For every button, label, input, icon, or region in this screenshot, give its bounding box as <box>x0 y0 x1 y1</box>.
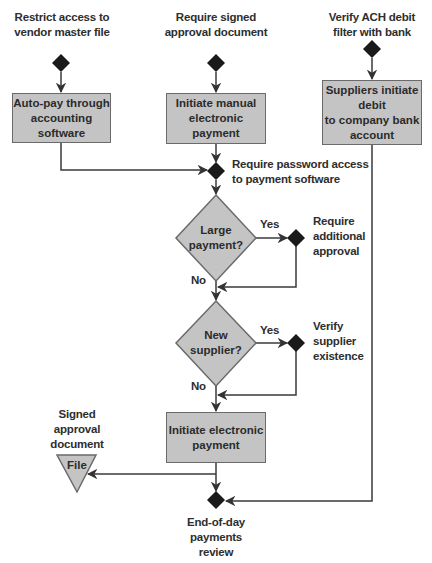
control-diamond-verify <box>287 334 305 352</box>
control-label-additional-approval: Require additional approval <box>313 214 373 259</box>
label-line: vendor master file <box>8 25 116 40</box>
label-line: Auto-pay through <box>13 96 110 111</box>
control-label-restrict-access: Restrict access to vendor master file <box>8 10 116 40</box>
label-line: supplier <box>313 334 373 349</box>
label-line: Suppliers initiate debit <box>323 83 421 113</box>
process-electronic-payment: Initiate electronic payment <box>166 412 266 463</box>
label-line: Initiate electronic <box>169 423 264 438</box>
label-line: Require <box>313 214 373 229</box>
decision-text-large-payment: Large payment? <box>182 223 250 253</box>
label-line: Require signed <box>160 10 272 25</box>
label-line: to company bank <box>323 113 421 128</box>
file-text: File <box>60 458 94 473</box>
label-line: electronic payment <box>167 111 265 141</box>
control-diamond-ach <box>363 40 381 58</box>
control-label-password-access: Require password access to payment softw… <box>232 157 412 187</box>
label-line: payment <box>169 438 264 453</box>
label-line: Restrict access to <box>8 10 116 25</box>
label-line: Verify ACH debit <box>318 10 426 25</box>
control-diamond-restrict <box>52 54 70 72</box>
control-diamond-approval <box>287 229 305 247</box>
label-line: approval <box>313 244 373 259</box>
control-label-signed-approval: Require signed approval document <box>160 10 272 40</box>
label-line: approval document <box>160 25 272 40</box>
label-line: account <box>323 128 421 143</box>
file-label-signed-document: Signed approval document <box>42 407 112 452</box>
label-line: Require password access <box>232 157 412 172</box>
label-line: existence <box>313 349 373 364</box>
label-line: additional <box>313 229 373 244</box>
label-line: review <box>176 545 256 560</box>
label-line: New <box>182 328 250 343</box>
process-manual-payment: Initiate manual electronic payment <box>166 93 266 144</box>
control-diamond-eod <box>207 491 225 509</box>
yes-label-large-payment: Yes <box>260 217 279 232</box>
label-line: Signed <box>42 407 112 422</box>
no-label-large-payment: No <box>191 273 206 288</box>
label-line: accounting software <box>13 111 110 141</box>
control-diamond-password <box>207 162 225 180</box>
label-line: payments <box>176 530 256 545</box>
control-label-ach-filter: Verify ACH debit filter with bank <box>318 10 426 40</box>
label-line: Large <box>182 223 250 238</box>
decision-text-new-supplier: New supplier? <box>182 328 250 358</box>
label-line: document <box>42 437 112 452</box>
label-line: Initiate manual <box>167 96 265 111</box>
label-line: approval <box>42 422 112 437</box>
process-supplier-debit: Suppliers initiate debit to company bank… <box>322 80 422 145</box>
no-label-new-supplier: No <box>191 379 206 394</box>
process-auto-pay: Auto-pay through accounting software <box>12 93 111 143</box>
control-diamond-signed <box>207 54 225 72</box>
label-line: supplier? <box>182 343 250 358</box>
label-line: Verify <box>313 319 373 334</box>
label-line: payment? <box>182 238 250 253</box>
label-line: End-of-day <box>176 515 256 530</box>
label-line: filter with bank <box>318 25 426 40</box>
yes-label-new-supplier: Yes <box>260 323 279 338</box>
control-label-eod-review: End-of-day payments review <box>176 515 256 560</box>
label-line: to payment software <box>232 172 412 187</box>
control-label-verify-supplier: Verify supplier existence <box>313 319 373 364</box>
